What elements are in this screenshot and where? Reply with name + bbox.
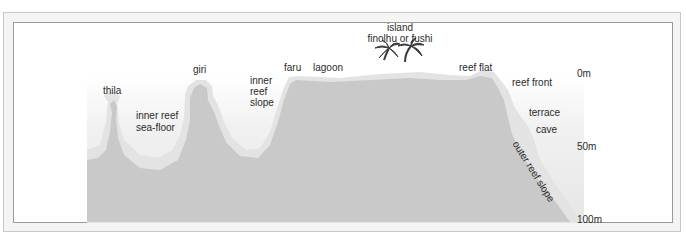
label-finolhu-or-fushi: finolhu or fushi <box>360 33 440 45</box>
label-reef-flat: reef flat <box>459 62 492 74</box>
reef-profile-graphic <box>0 0 686 236</box>
label-cave: cave <box>536 124 557 136</box>
label-faru: faru <box>284 62 301 74</box>
label-giri: giri <box>193 64 206 76</box>
depth-0m: 0m <box>577 68 591 79</box>
label-terrace: terrace <box>529 107 560 119</box>
label-inner-reef-seafloor-2: sea-floor <box>136 122 175 134</box>
label-inner-reef-seafloor-1: inner reef <box>136 110 178 122</box>
label-inner-reef-slope-3: slope <box>250 97 274 109</box>
label-reef-front: reef front <box>512 77 552 89</box>
depth-100m: 100m <box>577 214 602 225</box>
label-lagoon: lagoon <box>313 62 343 74</box>
label-thila: thila <box>103 85 121 97</box>
depth-50m: 50m <box>577 141 596 152</box>
